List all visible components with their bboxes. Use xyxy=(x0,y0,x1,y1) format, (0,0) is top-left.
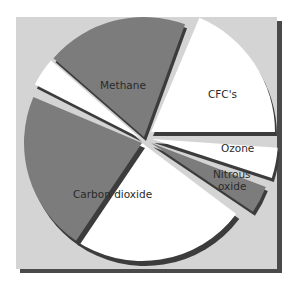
pie-chart-figure: Methane CFC's Ozone Nitrous oxide Carbon… xyxy=(0,0,296,285)
label-nitrous-line1: Nitrous xyxy=(213,168,251,180)
label-carbon-dioxide: Carbon dioxide xyxy=(73,188,152,200)
label-cfcs: CFC's xyxy=(208,88,237,100)
label-methane: Methane xyxy=(100,79,146,91)
label-ozone: Ozone xyxy=(221,142,254,154)
label-nitrous-line2: oxide xyxy=(218,180,246,192)
